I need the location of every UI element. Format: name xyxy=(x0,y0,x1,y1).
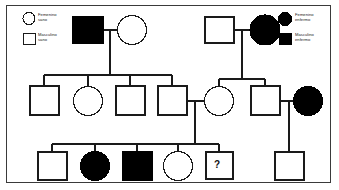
legend-circle-filled-icon xyxy=(279,13,292,26)
individual-II-2-female-unaffected xyxy=(74,87,103,116)
individual-III-3-male-affected xyxy=(123,152,152,180)
individual-II-3-male-unaffected xyxy=(116,86,145,115)
legend-label-female-affected-line2: enfermo xyxy=(295,18,310,23)
individual-I-2-female-unaffected xyxy=(118,16,147,45)
individual-I-4-female-affected xyxy=(250,15,280,45)
legend-label-male-affected-line2: enfermo xyxy=(295,38,310,43)
individual-III-2-female-affected xyxy=(81,152,110,181)
individual-II-5-female-unaffected xyxy=(205,87,234,116)
individual-II-7-female-affected xyxy=(294,87,323,116)
legend-label-male-healthy-line2: sano xyxy=(38,38,47,43)
legend-square-open-icon xyxy=(23,33,35,44)
individual-III-4-female-unaffected xyxy=(164,152,193,181)
individual-I-1-male-affected xyxy=(73,17,103,43)
pedigree-diagram xyxy=(0,0,339,190)
individual-II-4-male-unaffected xyxy=(158,86,187,115)
individual-I-3-male-unaffected xyxy=(205,17,234,43)
unknown-phenotype-marker: ? xyxy=(214,160,220,170)
legend-circle-open-icon xyxy=(23,13,35,25)
legend-label-female-healthy-line2: sano xyxy=(38,18,47,23)
individual-III-1-male-unaffected xyxy=(38,152,67,180)
individual-II-1-male-unaffected xyxy=(30,86,59,115)
legend-square-filled-icon xyxy=(279,33,291,44)
pedigree-figure: Femenino sano Masculino sano Femenino en… xyxy=(0,0,339,190)
individual-II-6-male-unaffected xyxy=(251,86,280,115)
individual-III-6-male-unaffected xyxy=(275,152,304,180)
